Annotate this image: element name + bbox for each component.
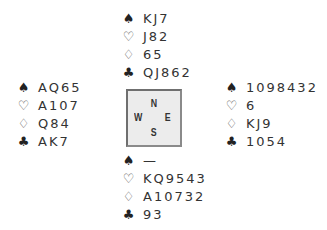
spade-icon: ♠ [225, 79, 238, 97]
club-icon: ♣ [225, 133, 238, 151]
west-diamonds: ♢Q84 [17, 115, 71, 133]
heart-icon: ♡ [122, 170, 135, 188]
compass-north: N [151, 97, 157, 109]
west-hearts: ♡A107 [17, 97, 80, 115]
north-spades: ♠KJ7 [122, 10, 170, 28]
south-hearts: ♡KQ9543 [122, 170, 207, 188]
diamond-icon: ♢ [122, 188, 135, 206]
club-icon: ♣ [17, 133, 30, 151]
club-icon: ♣ [122, 206, 135, 224]
north-diamonds: ♢65 [122, 46, 164, 64]
diamond-icon: ♢ [17, 115, 30, 133]
heart-icon: ♡ [225, 97, 238, 115]
west-spades: ♠AQ65 [17, 79, 81, 97]
north-hearts: ♡J82 [122, 28, 169, 46]
south-clubs: ♣93 [122, 206, 164, 224]
compass-east: E [165, 111, 171, 123]
spade-icon: ♠ [122, 152, 135, 170]
compass-west: W [134, 111, 142, 123]
south-spades: ♠— [122, 152, 158, 170]
east-clubs: ♣1054 [225, 133, 287, 151]
spade-icon: ♠ [122, 10, 135, 28]
east-spades: ♠1098432 [225, 79, 318, 97]
diamond-icon: ♢ [225, 115, 238, 133]
club-icon: ♣ [122, 64, 135, 82]
west-clubs: ♣AK7 [17, 133, 70, 151]
north-clubs: ♣QJ862 [122, 64, 192, 82]
south-diamonds: ♢A10732 [122, 188, 205, 206]
compass-south: S [151, 126, 157, 138]
diamond-icon: ♢ [122, 46, 135, 64]
heart-icon: ♡ [122, 28, 135, 46]
east-hearts: ♡6 [225, 97, 256, 115]
spade-icon: ♠ [17, 79, 30, 97]
east-diamonds: ♢KJ9 [225, 115, 273, 133]
heart-icon: ♡ [17, 97, 30, 115]
compass-box: N W E S [126, 89, 182, 147]
